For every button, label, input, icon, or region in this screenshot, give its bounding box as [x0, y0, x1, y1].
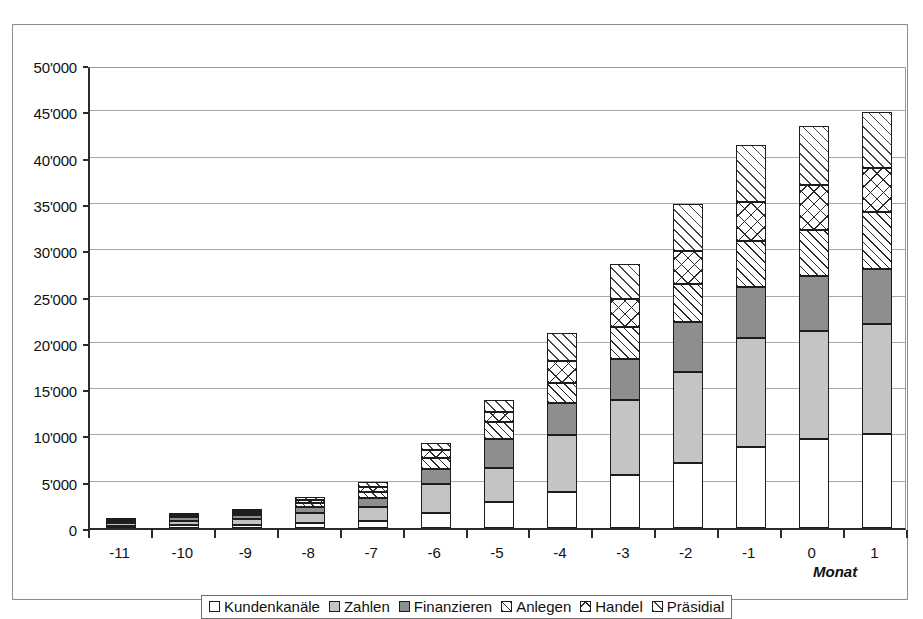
bar-segment-zahlen[interactable] [169, 521, 199, 526]
bar-segment-präsidial[interactable] [736, 145, 766, 202]
bar-segment-anlegen[interactable] [673, 284, 703, 323]
bar-segment-präsidial[interactable] [421, 443, 451, 450]
bar-segment-präsidial[interactable] [484, 400, 514, 412]
bar-segment-kundenkanäle[interactable] [736, 447, 766, 528]
bar-segment-kundenkanäle[interactable] [547, 492, 577, 528]
bar-segment-zahlen[interactable] [295, 513, 325, 523]
bar-segment-finanzieren[interactable] [169, 517, 199, 520]
bar-segment-präsidial[interactable] [547, 333, 577, 362]
bars-layer [90, 68, 905, 528]
bar-segment-finanzieren[interactable] [736, 287, 766, 338]
bar-segment-kundenkanäle[interactable] [673, 463, 703, 528]
bar-column-minus10[interactable] [169, 65, 199, 528]
legend-item-präsidial[interactable]: Präsidial [652, 599, 725, 614]
bar-segment-zahlen[interactable] [547, 435, 577, 491]
bar-segment-finanzieren[interactable] [673, 322, 703, 371]
bar-column-minus11[interactable] [106, 65, 136, 528]
bar-segment-anlegen[interactable] [610, 327, 640, 359]
bar-segment-handel[interactable] [358, 487, 388, 492]
bar-column-minus2[interactable] [673, 65, 703, 528]
bar-segment-kundenkanäle[interactable] [484, 502, 514, 528]
bar-segment-zahlen[interactable] [484, 468, 514, 502]
bar-segment-kundenkanäle[interactable] [421, 513, 451, 528]
bar-segment-anlegen[interactable] [169, 515, 199, 517]
y-axis-tick-label-30000: 30'000 [34, 244, 77, 261]
bar-segment-kundenkanäle[interactable] [610, 475, 640, 528]
bar-segment-finanzieren[interactable] [484, 439, 514, 468]
x-axis-tick-mark-3 [277, 530, 279, 538]
bar-segment-präsidial[interactable] [295, 497, 325, 500]
x-axis-tick-mark-6 [466, 530, 468, 538]
bar-segment-präsidial[interactable] [169, 513, 199, 515]
legend-item-finanzieren[interactable]: Finanzieren [399, 599, 492, 614]
bar-column-minus1[interactable] [736, 65, 766, 528]
bar-segment-handel[interactable] [484, 412, 514, 421]
bar-segment-finanzieren[interactable] [610, 359, 640, 400]
bar-column-1[interactable] [862, 65, 892, 528]
bar-segment-finanzieren[interactable] [295, 507, 325, 513]
bar-segment-kundenkanäle[interactable] [232, 525, 262, 528]
bar-segment-finanzieren[interactable] [799, 276, 829, 331]
bar-column-minus6[interactable] [421, 65, 451, 528]
bar-segment-finanzieren[interactable] [232, 515, 262, 519]
x-axis-tick-mark-10 [717, 530, 719, 538]
bar-segment-zahlen[interactable] [862, 324, 892, 434]
bar-segment-anlegen[interactable] [421, 458, 451, 469]
bar-segment-finanzieren[interactable] [421, 469, 451, 484]
bar-segment-kundenkanäle[interactable] [862, 434, 892, 528]
bar-segment-anlegen[interactable] [862, 212, 892, 268]
bar-segment-anlegen[interactable] [799, 230, 829, 276]
bar-segment-kundenkanäle[interactable] [799, 439, 829, 528]
bar-segment-anlegen[interactable] [232, 513, 262, 515]
bar-column-0[interactable] [799, 65, 829, 528]
bar-segment-präsidial[interactable] [358, 482, 388, 488]
legend-item-anlegen[interactable]: Anlegen [501, 599, 571, 614]
bar-segment-präsidial[interactable] [610, 264, 640, 299]
bar-column-minus8[interactable] [295, 65, 325, 528]
bar-segment-präsidial[interactable] [862, 112, 892, 168]
bar-column-minus9[interactable] [232, 65, 262, 528]
bar-segment-handel[interactable] [799, 185, 829, 229]
bar-segment-finanzieren[interactable] [547, 403, 577, 435]
bar-segment-anlegen[interactable] [295, 503, 325, 507]
bar-segment-handel[interactable] [862, 168, 892, 212]
bar-segment-zahlen[interactable] [232, 519, 262, 525]
bar-segment-zahlen[interactable] [736, 338, 766, 446]
bar-segment-zahlen[interactable] [358, 507, 388, 521]
bar-segment-anlegen[interactable] [547, 383, 577, 403]
x-axis-tick-mark-7 [528, 530, 530, 538]
legend-item-zahlen[interactable]: Zahlen [329, 599, 390, 614]
bar-segment-handel[interactable] [295, 500, 325, 503]
bar-segment-präsidial[interactable] [799, 126, 829, 185]
bar-segment-handel[interactable] [610, 299, 640, 327]
bar-segment-präsidial[interactable] [106, 518, 136, 520]
bar-segment-handel[interactable] [547, 361, 577, 382]
x-axis-tick-mark-1 [151, 530, 153, 538]
legend-label: Präsidial [667, 599, 725, 614]
bar-segment-kundenkanäle[interactable] [169, 525, 199, 528]
bar-segment-handel[interactable] [736, 202, 766, 241]
bar-segment-zahlen[interactable] [421, 484, 451, 514]
bar-segment-kundenkanäle[interactable] [358, 521, 388, 528]
bar-segment-anlegen[interactable] [736, 241, 766, 287]
bar-segment-anlegen[interactable] [484, 422, 514, 440]
bar-column-minus5[interactable] [484, 65, 514, 528]
bar-segment-präsidial[interactable] [232, 509, 262, 511]
bar-segment-zahlen[interactable] [673, 372, 703, 464]
bar-segment-kundenkanäle[interactable] [295, 523, 325, 528]
bar-segment-finanzieren[interactable] [862, 269, 892, 325]
bar-segment-zahlen[interactable] [610, 400, 640, 475]
legend-item-handel[interactable]: Handel [580, 599, 643, 614]
bar-segment-zahlen[interactable] [106, 523, 136, 526]
bar-segment-kundenkanäle[interactable] [106, 526, 136, 528]
bar-segment-anlegen[interactable] [358, 492, 388, 498]
bar-segment-finanzieren[interactable] [358, 498, 388, 506]
legend-item-kundenkanäle[interactable]: Kundenkanäle [209, 599, 320, 614]
bar-segment-präsidial[interactable] [673, 204, 703, 251]
bar-segment-handel[interactable] [421, 450, 451, 457]
bar-segment-zahlen[interactable] [799, 331, 829, 439]
bar-column-minus3[interactable] [610, 65, 640, 528]
bar-column-minus4[interactable] [547, 65, 577, 528]
bar-segment-handel[interactable] [673, 251, 703, 283]
bar-column-minus7[interactable] [358, 65, 388, 528]
